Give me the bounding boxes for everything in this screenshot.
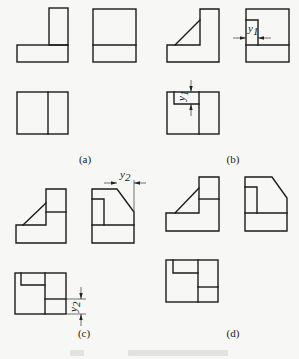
arrow-right-icon [111,181,117,184]
dim-label-y1-rotated: y1 [175,91,190,102]
panel-a-front-view [17,8,68,62]
panel-b-top-view: y1 [167,80,219,134]
caption-faded-text [128,350,228,356]
panel-d [166,177,287,302]
panel-b-side-view: y1 [233,9,289,62]
arrow-left-icon [134,181,140,184]
dim-label-y1: y1 [247,22,258,37]
arrow-down-icon [79,293,82,299]
panel-c-top-view: y2 [15,273,86,326]
caption-faded-fragment [70,350,84,356]
dim-label-y2-rotated: y2 [67,301,82,313]
panel-b: y1 y1 [167,9,289,134]
panel-d-side-view [245,177,287,231]
panel-label-c: (c) [78,327,90,339]
panel-c: y2 y2 [15,168,146,326]
panel-a [17,8,136,134]
arrow-left-icon [258,36,264,39]
panel-label-a: (a) [79,153,91,165]
panel-d-front-view [166,177,219,231]
arrow-up-icon [79,314,82,320]
panel-b-front-view [167,9,219,62]
panel-a-side-view [93,9,136,62]
arrow-right-icon [240,36,246,39]
panel-label-d: (d) [227,327,240,339]
dim-label-y2: y2 [119,168,131,183]
panel-label-b: (b) [227,153,240,165]
panel-c-side-view: y2 [92,168,146,243]
arrow-up-icon [189,104,192,110]
panel-c-front-view [16,189,66,243]
panel-a-top-view [17,92,68,134]
three-view-drawing-canvas: y1 y1 [0,0,299,359]
panel-d-top-view [166,260,218,302]
